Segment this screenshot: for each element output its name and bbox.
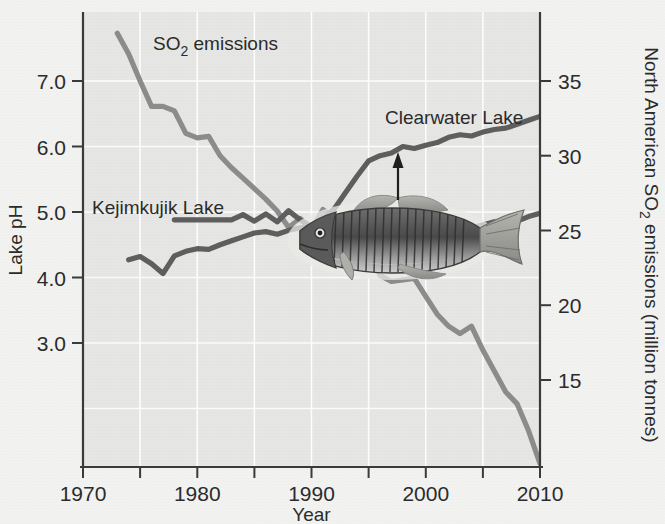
left-tick-label-6: 6.0 <box>37 136 66 159</box>
left-tick-label-5: 5.0 <box>37 201 66 224</box>
chart-svg: SO2 emissions Kejimkujik Lake Clearwater… <box>0 0 665 524</box>
left-axis-title: Lake pH <box>5 205 26 276</box>
x-tick-label-2010: 2010 <box>517 482 564 505</box>
right-tick-label-20: 20 <box>558 294 581 317</box>
chart-figure: SO2 emissions Kejimkujik Lake Clearwater… <box>0 0 665 524</box>
right-tick-label-15: 15 <box>558 369 581 392</box>
x-axis-title: Year <box>292 504 331 524</box>
right-axis-title-part2: emissions (million tonnes) <box>641 219 662 443</box>
series-label-so2-tail: emissions <box>188 33 278 54</box>
left-tick-label-7: 7.0 <box>37 70 66 93</box>
right-tick-label-30: 30 <box>558 145 581 168</box>
right-axis-title-part1: North American SO <box>641 47 662 211</box>
right-tick-label-35: 35 <box>558 70 581 93</box>
x-tick-label-1980: 1980 <box>174 482 221 505</box>
series-label-so2-subscript: 2 <box>180 43 188 59</box>
series-label-kejimkujik-lake: Kejimkujik Lake <box>92 197 224 218</box>
left-tick-label-3: 3.0 <box>37 332 66 355</box>
left-tick-label-4: 4.0 <box>37 267 66 290</box>
right-axis-title-subscript: 2 <box>637 211 653 219</box>
series-label-clearwater-lake: Clearwater Lake <box>385 107 523 128</box>
x-tick-label-2000: 2000 <box>402 482 449 505</box>
series-label-so2-main: SO <box>153 33 180 54</box>
x-tick-label-1970: 1970 <box>60 482 107 505</box>
right-tick-label-25: 25 <box>558 220 581 243</box>
x-tick-label-1990: 1990 <box>288 482 335 505</box>
